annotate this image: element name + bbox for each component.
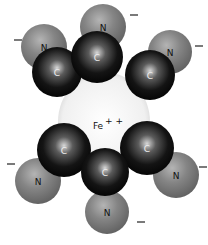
nitrogen-label: N xyxy=(173,171,180,181)
carbon-label: C xyxy=(61,146,67,156)
molecule-diagram: CNCNCNCNCNCNFe+ + xyxy=(0,0,208,245)
carbon-label: C xyxy=(94,53,100,63)
iron-label: Fe xyxy=(93,121,104,131)
nitrogen-label: N xyxy=(41,43,48,53)
nitrogen-label: N xyxy=(167,48,174,58)
carbon-label: C xyxy=(144,144,150,154)
nitrogen-label: N xyxy=(104,208,111,218)
iron-charge-label: + + xyxy=(105,116,123,126)
carbon-label: C xyxy=(54,68,60,78)
carbon-label: C xyxy=(147,71,153,81)
nitrogen-label: N xyxy=(100,23,107,33)
carbon-label: C xyxy=(102,168,108,178)
nitrogen-label: N xyxy=(35,177,42,187)
